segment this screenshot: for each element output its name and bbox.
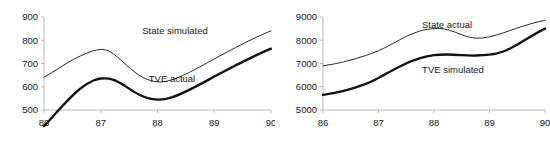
x-tick-label-90: 90	[266, 117, 275, 128]
chart-right-x-tick-labels: 86 87 88 89 90	[318, 117, 550, 128]
x-tick-label-89: 89	[484, 117, 495, 128]
x-tick-label-87: 87	[95, 117, 106, 128]
y-tick-label-6000: 6000	[296, 81, 317, 92]
chart-right-svg: 9000 8000 7000 6000 5000 86 87 88 89 90 …	[275, 0, 550, 144]
y-tick-label-5000: 5000	[296, 104, 317, 115]
chart-left-svg: 900 800 700 600 500 86 87 88 89 90 State…	[0, 0, 275, 144]
annotation-tve-simulated: TVE simulated	[422, 64, 484, 75]
x-tick-label-87: 87	[373, 117, 384, 128]
series-line-tve-simulated	[323, 29, 545, 95]
y-tick-label-900: 900	[22, 11, 38, 22]
chart-right-y-tick-labels: 9000 8000 7000 6000 5000	[296, 11, 317, 115]
y-tick-label-8000: 8000	[296, 35, 317, 46]
series-line-tve-actual	[44, 49, 271, 127]
chart-left-y-tick-labels: 900 800 700 600 500	[22, 11, 38, 115]
y-tick-label-800: 800	[22, 35, 38, 46]
annotation-state-simulated: State simulated	[142, 25, 207, 36]
y-tick-label-7000: 7000	[296, 58, 317, 69]
x-tick-label-88: 88	[429, 117, 440, 128]
x-tick-label-86: 86	[318, 117, 329, 128]
annotation-tve-actual: TVE actual	[149, 73, 195, 84]
chart-left-x-tick-labels: 86 87 88 89 90	[39, 117, 275, 128]
x-tick-label-88: 88	[152, 117, 163, 128]
y-tick-label-9000: 9000	[296, 11, 317, 22]
y-tick-label-700: 700	[22, 58, 38, 69]
two-panel-line-chart-figure: 900 800 700 600 500 86 87 88 89 90 State…	[0, 0, 550, 144]
y-tick-label-600: 600	[22, 81, 38, 92]
x-tick-label-90: 90	[540, 117, 550, 128]
chart-panel-left: 900 800 700 600 500 86 87 88 89 90 State…	[0, 0, 275, 144]
annotation-state-actual: State actual	[422, 19, 472, 30]
y-tick-label-500: 500	[22, 104, 38, 115]
x-tick-label-89: 89	[209, 117, 220, 128]
chart-panel-right: 9000 8000 7000 6000 5000 86 87 88 89 90 …	[275, 0, 550, 144]
